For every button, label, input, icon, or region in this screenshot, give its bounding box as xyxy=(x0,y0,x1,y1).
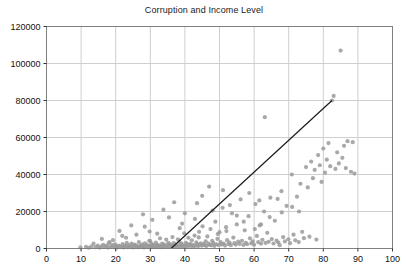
y-axis-tick-labels: 020000400006000080000100000120000 xyxy=(10,22,40,254)
data-point xyxy=(158,236,162,240)
data-point xyxy=(271,241,275,245)
data-point xyxy=(323,171,327,175)
data-point xyxy=(235,213,239,217)
data-point xyxy=(148,239,152,243)
data-point xyxy=(339,48,343,52)
data-point xyxy=(221,206,225,210)
data-point xyxy=(213,220,217,224)
data-point xyxy=(309,159,313,163)
data-point xyxy=(263,115,267,119)
data-point xyxy=(326,141,330,145)
data-point xyxy=(221,188,225,192)
data-point xyxy=(120,234,124,238)
data-point xyxy=(192,233,196,237)
data-point xyxy=(280,210,284,214)
y-tick-label: 20000 xyxy=(15,207,40,217)
data-point xyxy=(200,194,204,198)
data-point xyxy=(197,235,201,239)
data-point xyxy=(243,228,247,232)
data-point xyxy=(268,215,272,219)
scatter-chart: Corruption and Income Level 010203040506… xyxy=(0,0,408,279)
data-point xyxy=(342,144,346,148)
data-point xyxy=(215,237,219,241)
data-point xyxy=(100,237,104,241)
data-point xyxy=(318,163,322,167)
data-point xyxy=(224,225,228,229)
data-point xyxy=(281,235,285,239)
data-point xyxy=(183,211,187,215)
data-point xyxy=(325,158,329,162)
data-point xyxy=(267,240,271,244)
data-point xyxy=(134,233,138,237)
data-point xyxy=(302,236,306,240)
data-point xyxy=(245,242,249,246)
data-point xyxy=(332,94,336,98)
data-point xyxy=(197,230,201,234)
data-point xyxy=(290,205,294,209)
data-point xyxy=(167,215,171,219)
data-point xyxy=(148,229,152,233)
plot-area: 0102030405060708090100 02000040000600008… xyxy=(0,0,408,279)
data-point xyxy=(285,204,289,208)
y-tick-label: 120000 xyxy=(10,22,40,32)
x-tick-label: 80 xyxy=(318,254,328,264)
data-point xyxy=(297,240,301,244)
data-point xyxy=(328,164,332,168)
data-point xyxy=(298,182,302,186)
y-tick-label: 100000 xyxy=(10,59,40,69)
data-point xyxy=(190,238,194,242)
data-point xyxy=(276,197,280,201)
data-point xyxy=(224,229,228,233)
y-tick-label: 40000 xyxy=(15,170,40,180)
data-point xyxy=(228,203,232,207)
data-point xyxy=(262,209,266,213)
data-point xyxy=(124,236,128,240)
data-point xyxy=(288,241,292,245)
data-point xyxy=(286,237,290,241)
data-point xyxy=(290,172,294,176)
data-point xyxy=(297,209,301,213)
data-point xyxy=(129,223,133,227)
data-point xyxy=(304,165,308,169)
y-tick-label: 80000 xyxy=(15,96,40,106)
x-tick-label: 60 xyxy=(249,254,259,264)
data-point xyxy=(172,200,176,204)
data-point xyxy=(117,229,121,233)
x-tick-label: 50 xyxy=(214,254,224,264)
data-point xyxy=(306,185,310,189)
x-tick-label: 40 xyxy=(180,254,190,264)
x-tick-label: 100 xyxy=(385,254,400,264)
data-point xyxy=(340,156,344,160)
data-point xyxy=(319,180,323,184)
data-point xyxy=(270,237,274,241)
data-point xyxy=(300,230,304,234)
data-point xyxy=(242,220,246,224)
data-point xyxy=(216,232,220,236)
data-point xyxy=(155,232,159,236)
data-points xyxy=(78,48,356,249)
data-point xyxy=(246,214,250,218)
data-point xyxy=(137,240,141,244)
data-point xyxy=(295,195,299,199)
data-point xyxy=(253,202,257,206)
data-point xyxy=(205,234,209,238)
data-point xyxy=(345,139,349,143)
x-tick-label: 70 xyxy=(284,254,294,264)
x-axis-tick-labels: 0102030405060708090100 xyxy=(44,254,400,264)
data-point xyxy=(230,211,234,215)
data-point xyxy=(193,217,197,221)
data-point xyxy=(265,231,269,235)
data-point xyxy=(259,242,263,246)
data-point xyxy=(207,184,211,188)
axis-lines xyxy=(44,27,393,252)
x-tick-label: 30 xyxy=(145,254,155,264)
data-point xyxy=(311,176,315,180)
data-point xyxy=(161,208,165,212)
data-point xyxy=(291,233,295,237)
data-point xyxy=(337,161,341,165)
data-point xyxy=(247,191,251,195)
data-point xyxy=(178,226,182,230)
data-point xyxy=(273,219,277,223)
data-point xyxy=(195,201,199,205)
data-point xyxy=(352,171,356,175)
